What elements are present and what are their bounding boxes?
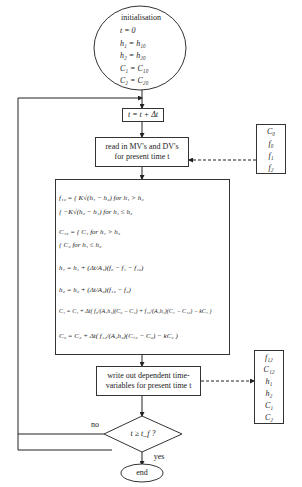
equation-f12-b: { −K√(h₂ − h₁) for h₁ ≤ h₂ (59, 208, 132, 216)
init-line: h₁ = h₁₀ (120, 38, 170, 51)
inputs-box: C₀ f₀ f₁ f₂ (256, 124, 286, 174)
output-item: C₁₂ (255, 364, 283, 376)
output-item: f₁₂ (255, 352, 283, 364)
write-line-1: write out dependent time- (97, 371, 200, 381)
equation-c12-b: { C₂ for h₁ ≤ h₂ (59, 241, 102, 249)
equation-c1: C₁ = C₁ + Δt( f₀/(A₁h₁)(C₀ − C₁) + f₁₂/(… (59, 308, 211, 314)
output-item: C₁ (255, 400, 283, 412)
input-item: f₂ (257, 162, 285, 174)
equations-box: f₁₂ = { K√(h₁ − h₂) for h₁ > h₂ { −K√(h₂… (55, 179, 230, 355)
input-item: C₀ (257, 126, 285, 138)
write-line-2: variables for present time t (97, 381, 200, 391)
init-line: t = 0 (120, 25, 170, 38)
time-step-box: t = t + Δt (122, 108, 164, 122)
output-item: h₂ (255, 388, 283, 400)
outputs-box: f₁₂ C₁₂ h₁ h₂ C₁ C₂ (254, 350, 284, 424)
read-line-1: read in MV's and DV's (96, 142, 188, 152)
output-item: C₂ (255, 412, 283, 424)
read-line-2: for present time t (96, 152, 188, 162)
init-line: C₂ = C₂₀ (120, 75, 170, 88)
read-inputs-box: read in MV's and DV's for present time t (95, 137, 189, 167)
equation-h1: h₁ = h₁ + (Δt/A₁)(f₀ − f₁ − f₁₂) (59, 264, 143, 272)
equation-c12-a: C₁₂ = { C₁ for h₁ > h₂ (59, 228, 120, 236)
write-outputs-box: write out dependent time- variables for … (96, 366, 201, 396)
init-title: initialisation (106, 13, 176, 23)
init-line: C₁ = C₁₀ (120, 63, 170, 76)
equation-h2: h₂ = h₂ + (Δt/A₂)(f₁₂ − f₂) (59, 286, 131, 294)
decision-yes-label: yes (150, 452, 168, 462)
init-lines: t = 0 h₁ = h₁₀ h₂ = h₂₀ C₁ = C₁₀ C₂ = C₂… (120, 25, 170, 88)
input-item: f₀ (257, 138, 285, 150)
decision-no-label: no (88, 420, 102, 430)
input-item: f₁ (257, 150, 285, 162)
decision-label: t ≥ t_f ? (115, 429, 171, 439)
init-line: h₂ = h₂₀ (120, 50, 170, 63)
output-item: h₁ (255, 376, 283, 388)
equation-c2: C₂ = C₂ + Δt( f₁₂/(A₂h₂)(C₁₂ − C₂) − kC₂… (59, 332, 178, 340)
end-terminator: end (122, 468, 162, 478)
equation-f12-a: f₁₂ = { K√(h₁ − h₂) for h₁ > h₂ (59, 194, 144, 202)
